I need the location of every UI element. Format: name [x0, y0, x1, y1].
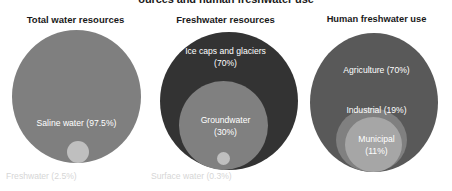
circle-municipal — [345, 117, 402, 172]
panel-heading-freshwater-resources: Freshwater resources — [150, 14, 301, 25]
panel-heading-total-water-resources: Total water resources — [0, 14, 151, 25]
label-saline-water: Saline water (97.5%) — [12, 118, 141, 130]
panel-freshwater-resources: Freshwater resources Ice caps and glacie… — [150, 0, 301, 191]
circle-surface-water — [217, 152, 230, 165]
label-surface-water: Surface water (0.3%) — [151, 171, 232, 181]
label-freshwater: Freshwater (2.5%) — [6, 171, 77, 181]
panel-human-freshwater-use: Human freshwater use Agriculture (70%) I… — [301, 0, 452, 191]
panel-heading-human-freshwater-use: Human freshwater use — [301, 14, 452, 24]
circle-freshwater — [67, 141, 89, 163]
panel-total-water-resources: Total water resources Saline water (97.5… — [0, 0, 151, 191]
